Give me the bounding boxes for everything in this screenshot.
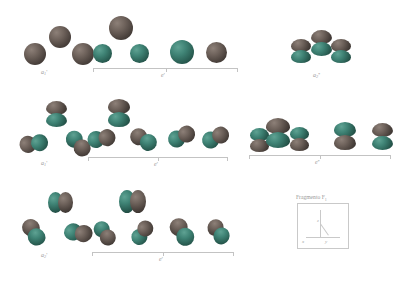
symmetry-label-e-prime-p: e' (154, 161, 158, 168)
orbital-p-vertical (291, 39, 311, 63)
orbital-p-vertical (311, 30, 332, 56)
orbital-p-tilted (166, 124, 199, 153)
orbital-p-vertical (334, 122, 356, 150)
axis-y-line (320, 223, 329, 235)
lobe-negative (266, 132, 290, 148)
lobe-positive (109, 16, 133, 40)
orbital-p-tilted (16, 128, 51, 161)
orbital-sphere (170, 40, 194, 64)
orbital-p-tilted (127, 218, 160, 249)
lobe-positive (58, 192, 73, 213)
lobe-negative (46, 113, 67, 127)
orbital-p-vertical (290, 127, 309, 151)
orbital-sphere (49, 26, 71, 48)
orbital-p-vertical (331, 39, 351, 63)
orbital-p-tilted (203, 217, 236, 248)
legend: Fragmento F1 z x y (296, 194, 356, 256)
lobe-positive (49, 26, 71, 48)
lobe-positive (372, 123, 393, 137)
orbital-p-tilted (200, 125, 233, 154)
orbital-group-e-double-prime-p (250, 118, 390, 158)
axis-x-line (306, 237, 340, 238)
label-prime: '' (318, 159, 320, 165)
orbital-p-vertical (108, 99, 130, 127)
orbital-group-a2-double-prime-s (291, 30, 351, 62)
symmetry-label-a2-double-prime-s: a2'' (313, 72, 320, 79)
orbital-group-e-prime-p (88, 99, 228, 157)
orbital-p-tilted (164, 215, 200, 249)
legend-title: Fragmento F1 (296, 194, 327, 202)
symmetry-label-e-double-prime-p: e'' (315, 159, 319, 166)
orbital-p-horizontal (48, 192, 72, 214)
lobe-negative (130, 44, 149, 63)
axis-x-label: x (302, 239, 304, 244)
orbital-group-a2-prime-p (20, 192, 92, 247)
symmetry-label-a1-prime-s: a1' (41, 69, 47, 76)
orbital-group-e-prime-p2 (92, 190, 234, 248)
orbital-sphere (24, 43, 46, 65)
lobe-negative (93, 44, 112, 63)
orbital-p-vertical (46, 101, 67, 127)
label-prime: ' (46, 69, 47, 75)
orbital-group-a1-prime-s (24, 26, 92, 64)
orbital-p-tilted (16, 216, 52, 250)
label-prime: ' (162, 256, 163, 262)
lobe-negative (291, 50, 311, 63)
orbital-sphere (93, 44, 112, 63)
orbital-p-tilted (85, 125, 119, 155)
orbital-sphere (206, 42, 227, 63)
orbital-sphere (72, 43, 94, 65)
orbital-group-a1-prime-p (20, 101, 92, 156)
lobe-positive (24, 43, 46, 65)
legend-title-text: Fragmento F (296, 194, 325, 200)
bracket-tick (163, 253, 164, 256)
orbital-p-vertical (372, 123, 393, 150)
label-prime: ' (157, 161, 158, 167)
symmetry-label-a2-prime-p: a2' (41, 252, 47, 259)
label-prime: ' (164, 72, 165, 78)
label-prime: ' (46, 160, 47, 166)
axis-z-label: z (317, 218, 319, 223)
symmetry-label-e-prime-s: e' (161, 72, 165, 79)
orbital-sphere (130, 44, 149, 63)
label-prime: ' (46, 252, 47, 258)
lobe-positive (290, 138, 309, 151)
molecular-orbital-figure: a1' e' (0, 0, 408, 285)
orbital-p-tilted (126, 126, 160, 156)
bracket-e-prime-s (93, 68, 238, 72)
bracket-tick (158, 158, 159, 161)
lobe-positive (130, 190, 146, 213)
bracket-e-prime-p2 (92, 252, 234, 256)
bracket-tick (320, 156, 321, 159)
orbital-p-horizontal (119, 190, 145, 214)
lobe-positive (334, 135, 356, 150)
lobe-positive (206, 42, 227, 63)
orbital-sphere (109, 16, 133, 40)
legend-axes-box: z x y (297, 203, 349, 249)
legend-title-subscript: 1 (325, 197, 327, 202)
bracket-tick (166, 69, 167, 72)
symmetry-label-a1-prime-p: a1' (41, 160, 47, 167)
orbital-p-tilted (89, 219, 122, 250)
bracket-e-double-prime-p (249, 155, 391, 159)
lobe-negative (331, 50, 351, 63)
orbital-p-vertical (266, 118, 290, 148)
lobe-negative (311, 42, 332, 56)
axis-y-label: y (325, 239, 327, 244)
lobe-negative (170, 40, 194, 64)
lobe-negative (372, 136, 393, 150)
bracket-e-prime-p (88, 157, 228, 161)
lobe-positive (72, 43, 94, 65)
symmetry-label-e-prime-p2: e' (159, 256, 163, 263)
orbital-group-e-prime-s (93, 16, 239, 64)
label-prime: '' (318, 72, 320, 78)
